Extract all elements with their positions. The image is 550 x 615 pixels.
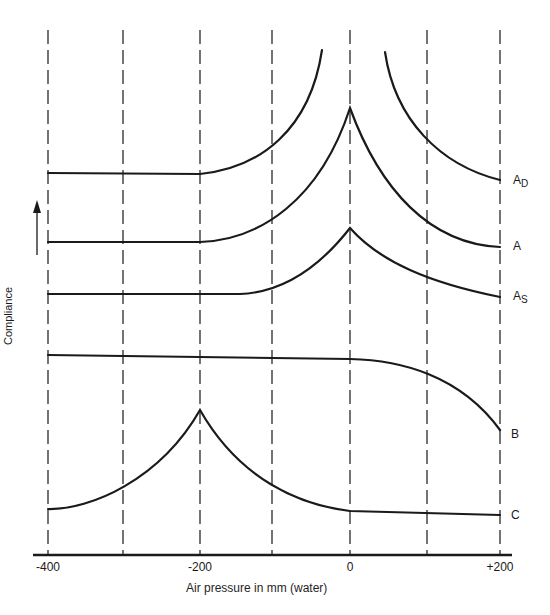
x-axis-title: Air pressure in mm (water) xyxy=(186,581,327,595)
tick-label-0: 0 xyxy=(347,560,354,574)
gridlines xyxy=(48,30,500,555)
label-AD-main: A xyxy=(513,173,521,187)
chart-plot-area xyxy=(0,0,550,615)
tick-label-pos200: +200 xyxy=(486,560,513,574)
y-axis-title: Compliance xyxy=(2,287,14,345)
compliance-arrow-icon xyxy=(33,200,41,255)
label-AD: AD xyxy=(513,173,528,187)
label-A: A xyxy=(513,239,521,253)
label-AS: AS xyxy=(513,289,528,303)
tick-label-neg400: -400 xyxy=(36,560,60,574)
curve-AD-right xyxy=(385,52,500,180)
curve-AD xyxy=(48,50,322,174)
label-C: C xyxy=(511,508,520,522)
curve-C xyxy=(48,410,500,515)
curve-B xyxy=(48,355,500,430)
curve-A xyxy=(48,108,500,247)
label-AS-sub: S xyxy=(521,294,528,305)
label-AS-main: A xyxy=(513,289,521,303)
tick-label-neg200: -200 xyxy=(188,560,212,574)
curve-AS xyxy=(48,228,500,297)
label-AD-sub: D xyxy=(521,178,528,189)
label-B: B xyxy=(511,427,519,441)
